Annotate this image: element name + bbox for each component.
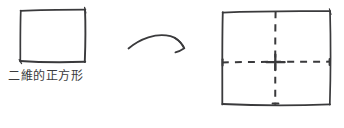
- left-square-left-edge: [20, 11, 21, 62]
- right-square-right-edge: [330, 11, 331, 105]
- arrow-head-lower-barb: [175, 48, 184, 52]
- left-square-top-edge: [21, 10, 86, 11]
- left-square-figure: [19, 8, 86, 64]
- left-square-right-edge: [85, 9, 86, 62]
- arrow-head-upper-barb: [175, 38, 184, 48]
- left-square-bottom-edge: [20, 61, 85, 62]
- sketch-drawing: [0, 0, 344, 128]
- right-square-figure: [222, 9, 331, 105]
- transformation-arrow: [129, 35, 185, 52]
- diagram-canvas: 二維的正方形: [0, 0, 344, 128]
- arrow-curve-shaft: [129, 35, 184, 48]
